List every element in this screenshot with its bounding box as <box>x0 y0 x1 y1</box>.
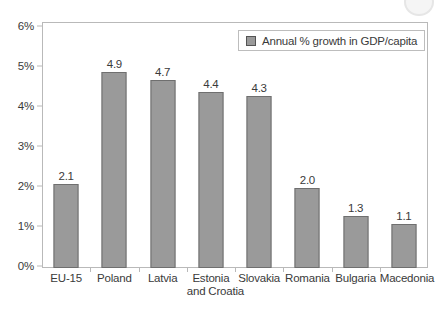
y-axis-tick-label: 6% <box>18 20 34 32</box>
bar <box>295 188 320 268</box>
bar-value-label: 2.0 <box>300 174 315 186</box>
legend-label: Annual % growth in GDP/capita <box>262 35 417 47</box>
bar <box>54 184 79 268</box>
bar-group: 2.1 <box>42 22 90 268</box>
bar-group: 4.4 <box>187 22 235 268</box>
legend-swatch-icon <box>246 36 256 46</box>
bar-group: 4.3 <box>235 22 283 268</box>
x-axis-category-label-line2: and Croatia <box>187 285 235 298</box>
x-axis-category-label: Macedonia <box>380 272 428 285</box>
y-axis-tick-label: 4% <box>18 100 34 112</box>
bar-value-label: 4.3 <box>251 82 266 94</box>
chart-legend: Annual % growth in GDP/capita <box>238 30 425 51</box>
x-axis: EU-15PolandLatviaEstoniaand CroatiaSlova… <box>42 272 428 312</box>
x-axis-category-label: Slovakia <box>235 272 283 285</box>
bar <box>247 96 272 268</box>
bar-value-label: 4.7 <box>155 66 170 78</box>
y-axis: 0%1%2%3%4%5%6% <box>0 0 42 312</box>
bar-group: 4.7 <box>139 22 187 268</box>
y-axis-tick-label: 1% <box>18 220 34 232</box>
bar-group: 1.1 <box>380 22 428 268</box>
y-axis-tick-label: 0% <box>18 260 34 272</box>
x-axis-category-label: Poland <box>90 272 138 285</box>
bar <box>198 92 223 268</box>
bar-chart: 0%1%2%3%4%5%6% 2.14.94.74.44.32.01.31.1 … <box>0 0 439 312</box>
bar-value-label: 4.4 <box>203 78 218 90</box>
bar-value-label: 2.1 <box>58 170 73 182</box>
x-axis-category-label: Estoniaand Croatia <box>187 272 235 298</box>
bar <box>391 224 416 268</box>
bar <box>102 72 127 268</box>
bar-group: 4.9 <box>90 22 138 268</box>
bar-value-label: 1.1 <box>396 210 411 222</box>
y-axis-tick-label: 5% <box>18 60 34 72</box>
bar-group: 2.0 <box>283 22 331 268</box>
bar <box>150 80 175 268</box>
y-axis-tick-label: 3% <box>18 140 34 152</box>
bars-layer: 2.14.94.74.44.32.01.31.1 <box>42 22 428 268</box>
bar-group: 1.3 <box>332 22 380 268</box>
x-axis-category-label: Bulgaria <box>332 272 380 285</box>
bar-value-label: 4.9 <box>107 58 122 70</box>
bar-value-label: 1.3 <box>348 202 363 214</box>
y-axis-tick-label: 2% <box>18 180 34 192</box>
x-axis-category-label: EU-15 <box>42 272 90 285</box>
bar <box>343 216 368 268</box>
x-axis-category-label: Romania <box>283 272 331 285</box>
x-axis-category-label: Latvia <box>139 272 187 285</box>
